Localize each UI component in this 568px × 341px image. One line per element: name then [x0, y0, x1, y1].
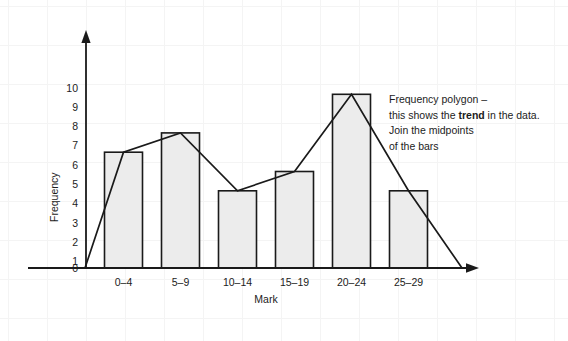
y-axis [81, 30, 90, 268]
table-row [333, 94, 371, 268]
y-axis-title: Frequency [48, 172, 60, 222]
chart-canvas [0, 0, 568, 341]
annotation-frequency-polygon: Frequency polygon – this shows the trend… [389, 92, 565, 154]
table-row [105, 152, 143, 268]
annotation-line-2-part-c: in the data. [485, 109, 540, 121]
frequency-polygon-chart: 10 9 8 7 6 5 4 3 2 1 0 Frequency 0–4 5–9… [0, 0, 568, 341]
annotation-line-1: Frequency polygon – [389, 92, 565, 108]
y-tick-10: 10 [54, 83, 78, 94]
annotation-line-2-part-a: this shows the [389, 109, 458, 121]
annotation-line-3: Join the midpoints [389, 123, 565, 139]
table-row [219, 191, 257, 268]
annotation-trend-emphasis: trend [458, 109, 484, 121]
y-tick-2: 2 [54, 237, 78, 248]
x-tick-20-24: 20–24 [322, 276, 382, 288]
annotation-line-2: this shows the trend in the data. [389, 108, 565, 124]
table-row [162, 133, 200, 268]
y-tick-6: 6 [54, 160, 78, 171]
annotation-line-4: of the bars [389, 139, 565, 155]
x-tick-25-29: 25–29 [379, 276, 439, 288]
x-axis-title: Mark [206, 293, 326, 305]
x-tick-5-9: 5–9 [151, 276, 211, 288]
y-tick-0: 0 [54, 263, 78, 274]
y-tick-7: 7 [54, 140, 78, 151]
x-tick-10-14: 10–14 [208, 276, 268, 288]
table-row [390, 191, 428, 268]
x-tick-0-4: 0–4 [94, 276, 154, 288]
y-tick-8: 8 [54, 121, 78, 132]
x-tick-15-19: 15–19 [265, 276, 325, 288]
table-row [276, 172, 314, 269]
y-tick-9: 9 [54, 102, 78, 113]
